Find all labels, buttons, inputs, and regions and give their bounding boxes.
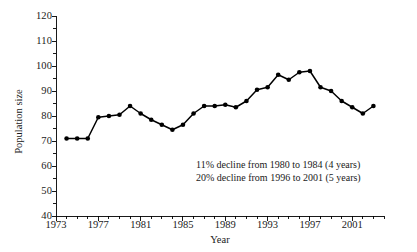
y-axis-tick-labels: 405060708090100110120 bbox=[0, 16, 52, 216]
chart-axes bbox=[0, 0, 417, 252]
data-point bbox=[191, 111, 196, 116]
data-point bbox=[160, 122, 165, 127]
data-point bbox=[181, 122, 186, 127]
x-tick-label: 1993 bbox=[257, 220, 278, 231]
data-point bbox=[107, 114, 112, 119]
annotation-line-2: 20% decline from 1996 to 2001 (5 years) bbox=[196, 171, 361, 184]
y-axis-title: Population size bbox=[13, 52, 24, 192]
data-point bbox=[223, 102, 228, 107]
data-point bbox=[96, 115, 101, 120]
data-point bbox=[276, 72, 281, 77]
data-point bbox=[339, 99, 344, 104]
y-tick-label: 90 bbox=[41, 86, 52, 97]
x-axis-tick-labels: 19731977198119851989199319972001 bbox=[56, 220, 384, 234]
data-point bbox=[265, 85, 270, 90]
x-tick-label: 1985 bbox=[172, 220, 193, 231]
data-point bbox=[117, 112, 122, 117]
x-tick-label: 1997 bbox=[299, 220, 320, 231]
data-point bbox=[329, 89, 334, 94]
data-point bbox=[75, 136, 80, 141]
data-point bbox=[350, 105, 355, 110]
x-tick-label: 1973 bbox=[46, 220, 67, 231]
data-point bbox=[128, 104, 133, 109]
x-tick-label: 2001 bbox=[342, 220, 363, 231]
y-tick-label: 80 bbox=[41, 111, 52, 122]
x-tick-label: 1989 bbox=[215, 220, 236, 231]
data-point bbox=[212, 104, 217, 109]
annotation-line-1: 11% decline from 1980 to 1984 (4 years) bbox=[196, 158, 361, 171]
decline-annotation: 11% decline from 1980 to 1984 (4 years) … bbox=[196, 158, 361, 184]
y-tick-label: 50 bbox=[41, 186, 52, 197]
data-point bbox=[361, 111, 366, 116]
data-point bbox=[244, 99, 249, 104]
population-size-line-chart: 405060708090100110120 197319771981198519… bbox=[0, 0, 417, 252]
y-tick-label: 120 bbox=[36, 11, 52, 22]
data-point bbox=[234, 105, 239, 110]
y-tick-label: 100 bbox=[36, 61, 52, 72]
data-point bbox=[297, 70, 302, 75]
series-line bbox=[67, 71, 374, 139]
x-tick-label: 1977 bbox=[88, 220, 109, 231]
data-point bbox=[64, 136, 69, 141]
data-point bbox=[308, 69, 313, 74]
data-point bbox=[138, 111, 143, 116]
data-point bbox=[318, 85, 323, 90]
data-point bbox=[371, 104, 376, 109]
y-tick-label: 110 bbox=[36, 36, 52, 47]
data-point bbox=[286, 77, 291, 82]
y-tick-label: 60 bbox=[41, 161, 52, 172]
data-point bbox=[170, 127, 175, 132]
x-axis-title: Year bbox=[56, 234, 384, 245]
y-tick-label: 70 bbox=[41, 136, 52, 147]
x-tick-label: 1981 bbox=[130, 220, 151, 231]
data-point bbox=[149, 117, 154, 122]
data-point bbox=[202, 104, 207, 109]
data-point bbox=[85, 136, 90, 141]
data-point bbox=[255, 87, 260, 92]
